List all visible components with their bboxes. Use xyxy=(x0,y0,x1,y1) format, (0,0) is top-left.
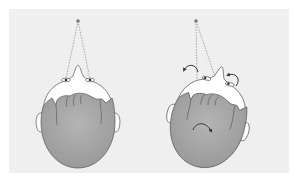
hair-cap xyxy=(41,93,115,168)
eye-rotation-arrow-left-icon xyxy=(184,65,198,72)
head-rotated xyxy=(156,19,262,177)
head-rotation-illustration xyxy=(0,0,294,177)
fixation-point-icon xyxy=(194,19,198,23)
head-neutral xyxy=(36,19,120,168)
fixation-point-icon xyxy=(76,19,80,23)
